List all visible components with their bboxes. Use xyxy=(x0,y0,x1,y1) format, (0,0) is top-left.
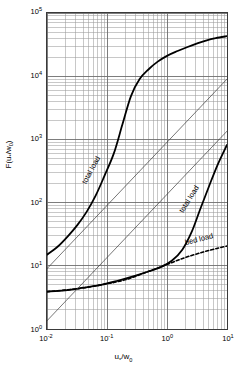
curve-label: bed load xyxy=(184,231,214,247)
x-axis-title: u*/w0 xyxy=(0,352,247,361)
curve-labels: total loadtotal loadbed load xyxy=(0,0,247,373)
y-axis-title: F(u*/w0) xyxy=(4,115,13,195)
curve-label: total load xyxy=(80,154,102,185)
curve-label: total load xyxy=(177,184,201,215)
chart-figure: 100101102103104105 10-210-1100101 total … xyxy=(0,0,247,373)
